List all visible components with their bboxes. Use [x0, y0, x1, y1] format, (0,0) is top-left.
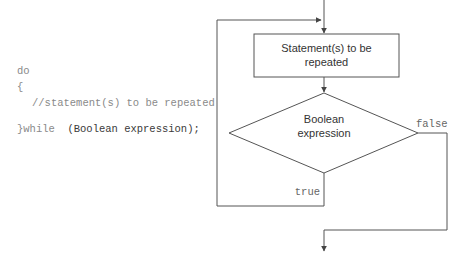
decision-label-line2: expression	[297, 127, 350, 139]
decision-label-line1: Boolean	[304, 113, 344, 125]
true-label: true	[295, 186, 320, 198]
statement-box-label-line2: repeated	[305, 56, 348, 68]
statement-box-label-line1: Statement(s) to be	[281, 42, 372, 54]
flowchart: Statement(s) to be repeated Boolean expr…	[0, 0, 463, 255]
false-label: false	[416, 118, 448, 130]
